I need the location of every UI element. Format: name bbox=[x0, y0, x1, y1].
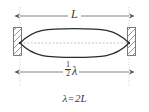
left-node-point bbox=[19, 42, 21, 44]
wave-crest-curve bbox=[20, 29, 129, 43]
half-wavelength-label: 1 2 λ bbox=[63, 61, 79, 79]
lambda-symbol: λ bbox=[72, 65, 77, 77]
right-fixed-end-wall bbox=[127, 22, 136, 67]
one-half-fraction: 1 2 bbox=[65, 61, 71, 79]
standing-wave-figure: L 1 2 λ λ=2L bbox=[0, 0, 149, 112]
fraction-denominator: 2 bbox=[65, 70, 71, 78]
equation-operator: = bbox=[67, 93, 75, 104]
equation-rhs: 2L bbox=[75, 92, 87, 104]
right-node-point bbox=[128, 42, 130, 44]
left-fixed-end-wall bbox=[13, 22, 22, 67]
wave-trough-curve bbox=[20, 43, 129, 57]
wavelength-equation: λ=2L bbox=[0, 92, 149, 104]
fraction-numerator: 1 bbox=[65, 61, 71, 69]
length-label: L bbox=[68, 8, 81, 20]
